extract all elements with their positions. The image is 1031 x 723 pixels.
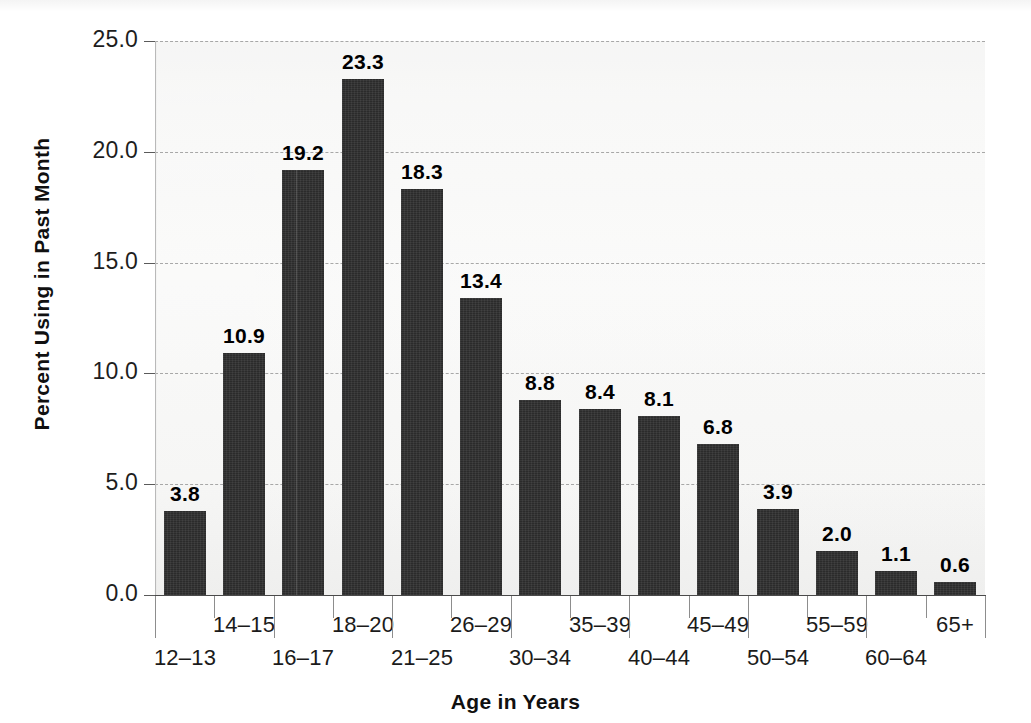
x-tick-mark xyxy=(926,596,927,618)
x-category-label: 18–20 xyxy=(303,612,423,638)
x-category-label: 26–29 xyxy=(421,612,541,638)
gridline xyxy=(155,484,985,485)
x-tick-mark xyxy=(807,596,808,618)
x-category-label: 50–54 xyxy=(718,645,838,671)
bar xyxy=(460,298,502,595)
bar xyxy=(282,170,324,595)
bar-value-label: 8.1 xyxy=(619,387,699,411)
y-tick-mark xyxy=(144,595,155,596)
bar xyxy=(164,511,206,595)
x-category-label: 16–17 xyxy=(243,645,363,671)
x-category-label: 35–39 xyxy=(540,612,660,638)
scan-artifact-band xyxy=(0,0,1031,12)
bar xyxy=(342,79,384,595)
bar-value-label: 3.8 xyxy=(145,482,225,506)
y-tick-mark xyxy=(144,41,155,42)
x-category-label: 65+ xyxy=(895,612,1015,638)
y-tick-label: 5.0 xyxy=(80,469,138,496)
bar xyxy=(401,189,443,595)
bar xyxy=(579,409,621,595)
x-tick-mark xyxy=(689,596,690,618)
bar-value-label: 0.6 xyxy=(915,553,995,577)
y-tick-label: 0.0 xyxy=(80,580,138,607)
bar-value-label: 23.3 xyxy=(323,50,403,74)
bar-value-label: 3.9 xyxy=(738,480,818,504)
x-tick-mark xyxy=(748,596,749,638)
x-category-label: 55–59 xyxy=(777,612,897,638)
bar xyxy=(816,551,858,595)
x-tick-mark xyxy=(333,596,334,618)
bar-value-label: 19.2 xyxy=(263,141,343,165)
bar-value-label: 13.4 xyxy=(441,269,521,293)
x-category-label: 14–15 xyxy=(184,612,304,638)
bar-value-label: 6.8 xyxy=(678,415,758,439)
x-category-label: 12–13 xyxy=(125,645,245,671)
plot-area xyxy=(155,41,985,595)
x-category-label: 60–64 xyxy=(836,645,956,671)
x-category-label: 45–49 xyxy=(658,612,778,638)
y-axis-line xyxy=(155,41,156,595)
x-tick-mark xyxy=(274,596,275,638)
x-tick-mark xyxy=(511,596,512,638)
x-category-label: 21–25 xyxy=(362,645,482,671)
x-tick-mark xyxy=(570,596,571,618)
x-axis-title: Age in Years xyxy=(0,690,1031,714)
bar xyxy=(638,416,680,595)
x-tick-mark xyxy=(214,596,215,618)
y-tick-label: 20.0 xyxy=(80,137,138,164)
bar xyxy=(223,353,265,595)
x-tick-mark xyxy=(629,596,630,638)
y-tick-mark xyxy=(144,152,155,153)
x-tick-mark xyxy=(985,596,986,638)
x-category-label: 30–34 xyxy=(480,645,600,671)
x-tick-mark xyxy=(866,596,867,638)
bar xyxy=(875,571,917,595)
y-axis-title: Percent Using in Past Month xyxy=(30,134,54,434)
x-category-label: 40–44 xyxy=(599,645,719,671)
gridline xyxy=(155,41,985,42)
y-tick-mark xyxy=(144,263,155,264)
bar-value-label: 18.3 xyxy=(382,160,462,184)
y-tick-mark xyxy=(144,373,155,374)
bar xyxy=(697,444,739,595)
x-tick-mark xyxy=(392,596,393,638)
bar xyxy=(757,509,799,595)
y-tick-label: 15.0 xyxy=(80,248,138,275)
chart-figure: 0.05.010.015.020.025.0 3.810.919.223.318… xyxy=(0,0,1031,723)
x-axis-line xyxy=(155,595,986,596)
bar xyxy=(934,582,976,595)
x-tick-mark xyxy=(451,596,452,618)
y-tick-label: 25.0 xyxy=(80,26,138,53)
y-tick-label: 10.0 xyxy=(80,358,138,385)
gridline xyxy=(155,263,985,264)
bar xyxy=(519,400,561,595)
bar-value-label: 10.9 xyxy=(204,324,284,348)
x-tick-mark xyxy=(155,596,156,638)
